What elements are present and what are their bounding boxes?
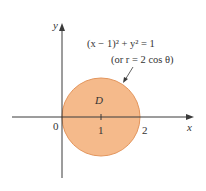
label-pointer-line (125, 67, 133, 80)
tick-label-2: 2 (142, 124, 148, 136)
equation-polar: (or r = 2 cos θ) (111, 54, 174, 66)
polar-region-diagram: y x 0 1 2 D (x − 1)² + y² = 1 (or r = 2 … (0, 0, 206, 191)
x-axis-label: x (186, 121, 192, 133)
x-axis-arrow-icon (186, 114, 194, 120)
label-pointer-arrow-icon (123, 77, 128, 83)
tick-label-origin: 0 (53, 120, 59, 132)
region-label: D (94, 94, 103, 106)
y-axis-label: y (52, 19, 58, 31)
equation-cartesian: (x − 1)² + y² = 1 (87, 38, 155, 50)
tick-label-1: 1 (98, 124, 104, 136)
y-axis-arrow-icon (59, 23, 65, 31)
